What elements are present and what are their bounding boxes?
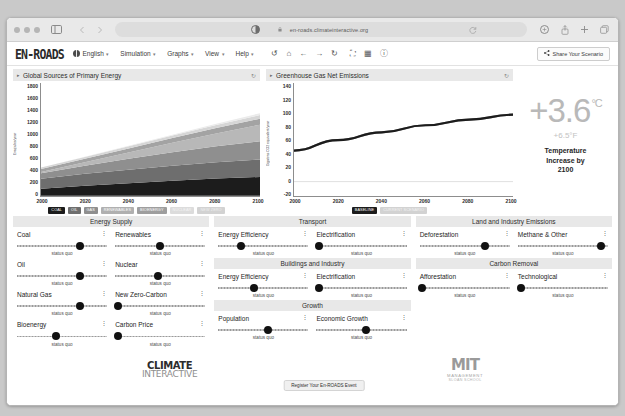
slider-economic-growth[interactable]: Economic Growth⋮status quo — [312, 312, 410, 341]
chart-reset-icon[interactable]: ↻ — [504, 72, 509, 79]
slider-new-zero-carbon[interactable]: New Zero-Carbon⋮status quo — [111, 288, 209, 317]
slider-renewables[interactable]: Renewables⋮status quo — [111, 228, 209, 257]
prev-arrow-icon[interactable]: ← — [299, 50, 307, 58]
slider-knob[interactable] — [362, 326, 370, 334]
nav-item-view[interactable]: View ▾ — [205, 50, 224, 57]
sidebar-toggle-icon[interactable] — [50, 23, 63, 36]
slider-menu-icon[interactable]: ⋮ — [99, 321, 107, 326]
next-arrow-icon[interactable]: → — [315, 50, 323, 58]
slider-afforestation[interactable]: Afforestation⋮status quo — [416, 270, 514, 299]
slider-electrification[interactable]: Electrification⋮status quo — [312, 228, 410, 257]
slider-energy-efficiency[interactable]: Energy Efficiency⋮status quo — [214, 228, 312, 257]
slider-track[interactable] — [115, 336, 205, 338]
maximize-window-button[interactable] — [34, 27, 40, 33]
slider-track[interactable] — [115, 305, 205, 307]
slider-track[interactable] — [17, 275, 107, 277]
slider-track[interactable] — [518, 245, 608, 247]
nav-item-simulation[interactable]: Simulation ▾ — [120, 50, 156, 57]
chevron-right-icon[interactable]: ▸ — [17, 72, 20, 78]
legend-chip[interactable]: BIOENERGY — [137, 207, 166, 214]
slider-knob[interactable] — [264, 326, 272, 334]
slider-track-wrapper[interactable] — [115, 241, 205, 250]
slider-nuclear[interactable]: Nuclear⋮status quo — [111, 258, 209, 287]
slider-knob[interactable] — [52, 332, 60, 340]
slider-knob[interactable] — [154, 272, 162, 280]
slider-menu-icon[interactable]: ⋮ — [197, 231, 205, 236]
share-icon[interactable] — [558, 23, 571, 36]
plot-canvas[interactable] — [40, 83, 260, 197]
chart-reset-icon[interactable]: ↻ — [251, 72, 256, 79]
legend-chip[interactable]: CURRENT SCENARIO — [380, 207, 427, 214]
grid-layout-icon[interactable]: ▦ — [364, 50, 372, 58]
slider-knob[interactable] — [76, 302, 84, 310]
share-scenario-button[interactable]: Share Your Scenario — [537, 47, 610, 61]
slider-track-wrapper[interactable] — [218, 241, 308, 250]
back-arrow-icon[interactable] — [75, 23, 88, 36]
window-traffic-lights[interactable] — [14, 27, 40, 33]
slider-track-wrapper[interactable] — [17, 332, 107, 341]
new-tab-icon[interactable] — [578, 23, 591, 36]
legend-chip[interactable]: NEW ZERO — [197, 207, 224, 214]
slider-deforestation[interactable]: Deforestation⋮status quo — [416, 228, 514, 257]
legend-chip[interactable]: NUCLEAR — [170, 207, 195, 214]
slider-knob[interactable] — [114, 302, 122, 310]
mit-sloan-logo[interactable]: MIT MANAGEMENT SLOAN SCHOOL — [447, 358, 483, 383]
slider-menu-icon[interactable]: ⋮ — [600, 231, 608, 236]
slider-menu-icon[interactable]: ⋮ — [99, 231, 107, 236]
address-bar[interactable]: en-roads.climateinteractive.org — [115, 22, 527, 37]
slider-energy-efficiency[interactable]: Energy Efficiency⋮status quo — [214, 270, 312, 299]
slider-track-wrapper[interactable] — [518, 283, 608, 292]
slider-menu-icon[interactable]: ⋮ — [600, 273, 608, 278]
fullscreen-icon[interactable]: ⛶ — [350, 50, 356, 58]
legend-chip[interactable]: COAL — [48, 207, 65, 214]
slider-menu-icon[interactable]: ⋮ — [399, 231, 407, 236]
slider-knob[interactable] — [76, 242, 84, 250]
slider-track-wrapper[interactable] — [17, 301, 107, 310]
legend-chip[interactable]: OIL — [68, 207, 80, 214]
slider-track[interactable] — [316, 245, 406, 247]
slider-track[interactable] — [420, 245, 510, 247]
slider-oil[interactable]: Oil⋮status quo — [13, 258, 111, 287]
slider-track-wrapper[interactable] — [518, 241, 608, 250]
slider-track-wrapper[interactable] — [218, 325, 308, 334]
slider-electrification[interactable]: Electrification⋮status quo — [312, 270, 410, 299]
slider-track-wrapper[interactable] — [115, 271, 205, 280]
slider-menu-icon[interactable]: ⋮ — [197, 261, 205, 266]
minimize-window-button[interactable] — [24, 27, 30, 33]
slider-track[interactable] — [316, 287, 406, 289]
slider-knob[interactable] — [76, 272, 84, 280]
slider-carbon-price[interactable]: Carbon Price⋮status quo — [111, 318, 209, 347]
refresh-icon[interactable] — [466, 23, 479, 36]
slider-menu-icon[interactable]: ⋮ — [399, 315, 407, 320]
slider-track-wrapper[interactable] — [115, 301, 205, 310]
slider-knob[interactable] — [250, 284, 258, 292]
slider-track-wrapper[interactable] — [316, 325, 406, 334]
slider-knob[interactable] — [517, 284, 525, 292]
climate-interactive-logo[interactable]: CLIMATE INTERACTIVE — [142, 361, 197, 379]
undo-icon[interactable]: ↺ — [271, 50, 278, 58]
nav-item-graphs[interactable]: Graphs ▾ — [167, 50, 194, 57]
chevron-right-icon[interactable]: ▸ — [270, 72, 273, 78]
slider-bioenergy[interactable]: Bioenergy⋮status quo — [13, 318, 111, 347]
nav-item-language[interactable]: English ▾ — [73, 50, 109, 57]
slider-menu-icon[interactable]: ⋮ — [502, 273, 510, 278]
slider-knob[interactable] — [418, 284, 426, 292]
slider-knob[interactable] — [237, 242, 245, 250]
close-window-button[interactable] — [14, 27, 20, 33]
chart-header[interactable]: ▸ Global Sources of Primary Energy ↻ — [13, 69, 260, 81]
slider-technological[interactable]: Technological⋮status quo — [514, 270, 612, 299]
slider-menu-icon[interactable]: ⋮ — [399, 273, 407, 278]
slider-track[interactable] — [518, 287, 608, 289]
slider-menu-icon[interactable]: ⋮ — [502, 231, 510, 236]
forward-arrow-icon[interactable] — [93, 23, 106, 36]
slider-menu-icon[interactable]: ⋮ — [300, 273, 308, 278]
slider-knob[interactable] — [597, 242, 605, 250]
slider-track-wrapper[interactable] — [17, 241, 107, 250]
slider-track-wrapper[interactable] — [17, 271, 107, 280]
slider-coal[interactable]: Coal⋮status quo — [13, 228, 111, 257]
home-icon[interactable]: ⌂ — [286, 50, 291, 58]
slider-menu-icon[interactable]: ⋮ — [99, 291, 107, 296]
slider-natural-gas[interactable]: Natural Gas⋮status quo — [13, 288, 111, 317]
tab-overview-icon[interactable] — [598, 23, 611, 36]
slider-track-wrapper[interactable] — [218, 283, 308, 292]
